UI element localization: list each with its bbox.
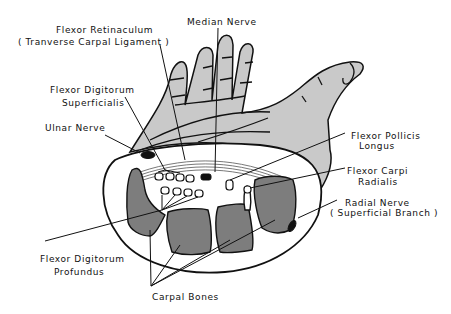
label-fpl: Flexor Pollicis (351, 131, 420, 141)
label-carpal-bones: Carpal Bones (152, 292, 219, 302)
label-fdp-sub: Profundus (54, 267, 104, 277)
label-flexor-retinaculum: Flexor Retinaculum (56, 25, 153, 35)
label-ulnar-nerve: Ulnar Nerve (45, 123, 105, 133)
label-radial-nerve-sub: ( Superficial Branch ) (330, 208, 438, 218)
label-radial-nerve: Radial Nerve (345, 198, 410, 208)
label-flexor-retinaculum-sub: ( Tranverse Carpal Ligament ) (18, 37, 169, 47)
label-fdp: Flexor Digitorum (40, 254, 125, 264)
label-fds: Flexor Digitorum (50, 85, 135, 95)
label-fpl-sub: Longus (359, 141, 395, 151)
median-nerve-shape (201, 174, 211, 180)
label-fds-sub: Superficialis (62, 98, 125, 108)
label-fcr: Flexor Carpi (347, 166, 408, 176)
label-median-nerve: Median Nerve (187, 17, 257, 27)
ulnar-nerve-shape (141, 152, 155, 159)
wrist-anatomy-diagram: Flexor Retinaculum ( Tranverse Carpal Li… (0, 0, 451, 314)
label-fcr-sub: Radialis (358, 177, 398, 187)
